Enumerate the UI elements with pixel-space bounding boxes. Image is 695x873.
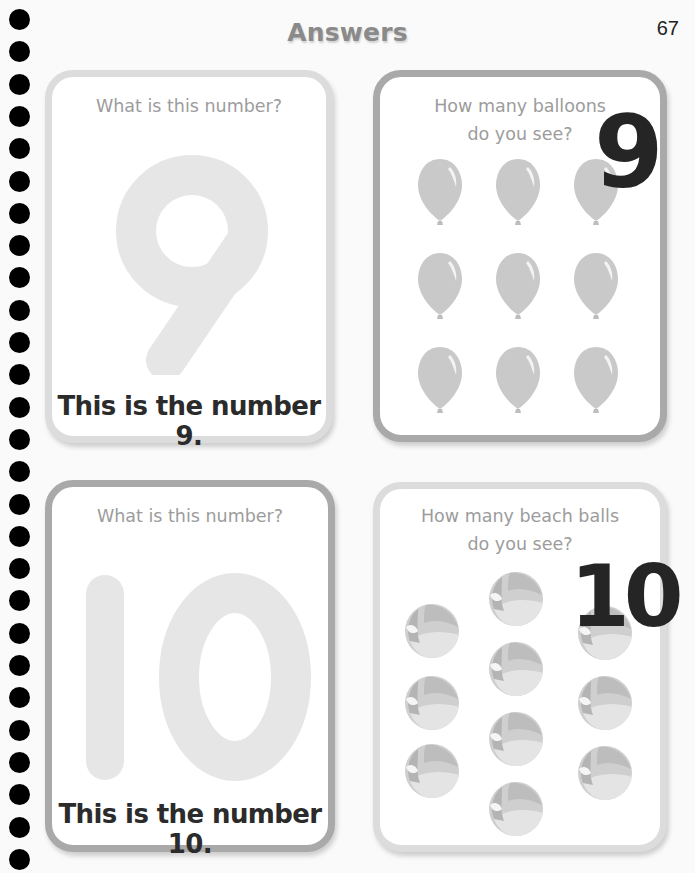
- answer-number: 10: [570, 553, 678, 639]
- spiral-hole: [9, 526, 30, 547]
- card-beach-balls: How many beach balls do you see? 10: [373, 482, 667, 852]
- balloon-icon: [417, 157, 463, 227]
- balloon-icon: [495, 345, 541, 415]
- spiral-hole: [9, 171, 30, 192]
- spiral-hole: [9, 461, 30, 482]
- card-balloons: How many balloons do you see? 9: [373, 70, 667, 442]
- beach-ball-icon: [404, 743, 460, 799]
- balloon-icon: [495, 251, 541, 321]
- spiral-hole: [9, 720, 30, 741]
- answer-number: 9: [594, 103, 664, 203]
- beach-ball-icon: [577, 675, 633, 731]
- ghost-digit-10: [82, 571, 312, 786]
- balloon-icon: [573, 251, 619, 321]
- spiral-hole: [9, 752, 30, 773]
- card-question: What is this number?: [52, 503, 328, 530]
- spiral-hole: [9, 849, 30, 870]
- spiral-hole: [9, 267, 30, 288]
- beach-ball-icon: [488, 711, 544, 767]
- beach-ball-icon: [488, 641, 544, 697]
- spiral-hole: [9, 203, 30, 224]
- spiral-hole: [9, 623, 30, 644]
- spiral-hole: [9, 397, 30, 418]
- spiral-hole: [9, 687, 30, 708]
- balloon-icon: [417, 251, 463, 321]
- spiral-hole: [9, 106, 30, 127]
- beach-ball-icon: [488, 781, 544, 837]
- spiral-hole: [9, 784, 30, 805]
- ghost-digit-9: [114, 155, 274, 375]
- spiral-hole: [9, 590, 30, 611]
- card-question: What is this number?: [52, 93, 326, 120]
- spiral-hole: [9, 332, 30, 353]
- spiral-hole: [9, 74, 30, 95]
- card-answer: This is the number 9.: [52, 391, 326, 451]
- beach-ball-icon: [404, 603, 460, 659]
- card-question-line1: How many beach balls: [380, 503, 660, 530]
- beach-ball-icon: [488, 571, 544, 627]
- page-number: 67: [657, 17, 679, 40]
- spiral-hole: [9, 138, 30, 159]
- spiral-hole: [9, 300, 30, 321]
- beach-ball-icon: [404, 675, 460, 731]
- spiral-hole: [9, 655, 30, 676]
- spiral-hole: [9, 364, 30, 385]
- spiral-hole: [9, 817, 30, 838]
- spiral-hole: [9, 558, 30, 579]
- spiral-hole: [9, 235, 30, 256]
- balloon-icon: [573, 345, 619, 415]
- card-answer: This is the number 10.: [52, 799, 328, 859]
- beach-ball-icon: [577, 745, 633, 801]
- page-title: Answers: [0, 18, 695, 47]
- spiral-hole: [9, 494, 30, 515]
- balloon-icon: [495, 157, 541, 227]
- card-number-9: What is this number? This is the number …: [45, 70, 333, 443]
- balloon-icon: [417, 345, 463, 415]
- spiral-binding: [9, 0, 31, 873]
- card-number-10: What is this number? This is the number …: [45, 480, 335, 852]
- spiral-hole: [9, 429, 30, 450]
